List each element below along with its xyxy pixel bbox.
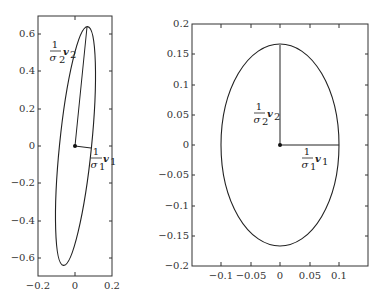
svg-text:2: 2 <box>274 111 280 122</box>
tick-label: 0.6 <box>19 28 35 39</box>
tick-label: 0.2 <box>173 18 189 29</box>
svg-text:v: v <box>315 153 321 164</box>
svg-text:1: 1 <box>256 101 262 112</box>
figure: −0.2 0 0.2 0.6 0.4 0.2 0 −0.2 −0.4 −0.6 … <box>0 0 379 301</box>
tick-label: −0.2 <box>26 280 50 291</box>
tick-label: −0.2 <box>11 177 35 188</box>
svg-text:1: 1 <box>93 146 99 157</box>
right-ann-v1: 1 σ 1 v 1 <box>302 146 329 172</box>
svg-text:v: v <box>63 46 69 57</box>
left-v1-vector <box>75 146 91 148</box>
tick-label: 0 <box>29 140 35 151</box>
svg-text:1: 1 <box>304 146 310 157</box>
svg-text:1: 1 <box>322 156 328 167</box>
tick-label: 0.05 <box>167 109 189 120</box>
right-plot: −0.1 −0.05 0 0.05 0.1 0.2 0.15 0.1 0.05 … <box>158 18 368 281</box>
tick-label: −0.15 <box>158 230 189 241</box>
svg-text:σ: σ <box>254 114 262 125</box>
tick-label: −0.4 <box>11 215 35 226</box>
tick-label: 0 <box>183 139 189 150</box>
tick-label: 0.4 <box>19 65 35 76</box>
tick-label: −0.2 <box>165 260 189 271</box>
tick-label: 0 <box>277 270 283 281</box>
svg-text:1: 1 <box>52 39 58 50</box>
svg-text:σ: σ <box>302 159 310 170</box>
tick-label: −0.05 <box>236 270 267 281</box>
svg-text:σ: σ <box>91 159 99 170</box>
left-ann-v1: 1 σ 1 v 1 <box>91 146 117 172</box>
right-origin-dot <box>278 143 282 147</box>
right-x-tick-labels: −0.1 −0.05 0 0.05 0.1 <box>209 270 347 281</box>
tick-label: −0.1 <box>209 270 233 281</box>
right-ann-v2: 1 σ 2 v 2 <box>254 101 281 127</box>
left-plot: −0.2 0 0.2 0.6 0.4 0.2 0 −0.2 −0.4 −0.6 … <box>11 16 120 291</box>
left-x-tick-labels: −0.2 0 0.2 <box>26 280 120 291</box>
svg-text:v: v <box>103 153 109 164</box>
tick-label: −0.05 <box>158 169 189 180</box>
tick-label: 0.1 <box>173 79 189 90</box>
left-origin-dot <box>73 144 77 148</box>
tick-label: −0.1 <box>165 200 189 211</box>
left-y-tick-labels: 0.6 0.4 0.2 0 −0.2 −0.4 −0.6 <box>11 28 35 263</box>
tick-label: 0.2 <box>19 103 35 114</box>
tick-label: 0 <box>72 280 78 291</box>
tick-label: 0.1 <box>331 270 347 281</box>
svg-text:1: 1 <box>110 156 116 167</box>
svg-text:v: v <box>267 108 273 119</box>
svg-text:2: 2 <box>70 49 76 60</box>
tick-label: −0.6 <box>11 252 35 263</box>
tick-label: 0.2 <box>104 280 120 291</box>
svg-text:σ: σ <box>50 52 58 63</box>
tick-label: 0.05 <box>299 270 321 281</box>
tick-label: 0.15 <box>167 48 189 59</box>
right-y-tick-labels: 0.2 0.15 0.1 0.05 0 −0.05 −0.1 −0.15 −0.… <box>158 18 189 271</box>
